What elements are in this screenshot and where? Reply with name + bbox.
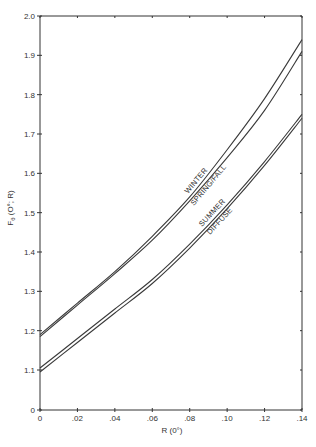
curve-spring-fall	[40, 51, 302, 336]
curve-diffuse	[40, 118, 302, 372]
curve-summer	[40, 114, 302, 368]
x-tick-label: .06	[147, 414, 159, 423]
x-tick-label: .10	[222, 414, 234, 423]
x-axis-title: R (0°)	[162, 426, 183, 435]
y-axis-title-rest: (O°; R)	[6, 190, 15, 218]
y-tick-label: 1.7	[24, 130, 36, 139]
y-tick-label: 2.0	[24, 12, 36, 21]
y-axis-title: Fθ (O°; R)	[6, 190, 16, 226]
x-tick-label: 0	[38, 414, 43, 423]
tick-labels: 2.01.91.81.71.61.51.41.31.21.100.02.04.0…	[24, 12, 308, 423]
chart: 2.01.91.81.71.61.51.41.31.21.100.02.04.0…	[0, 0, 316, 447]
x-tick-label: .14	[296, 414, 308, 423]
y-tick-label: 1.1	[24, 366, 36, 375]
curve-winter	[40, 40, 302, 335]
y-tick-label: 1.2	[24, 327, 36, 336]
x-tick-label: .08	[184, 414, 196, 423]
y-tick-label: 1.3	[24, 287, 36, 296]
y-tick-label: 0	[31, 406, 36, 415]
curves	[40, 40, 302, 372]
x-tick-label: .02	[72, 414, 84, 423]
y-tick-label: 1.8	[24, 91, 36, 100]
y-tick-label: 1.6	[24, 169, 36, 178]
y-tick-label: 1.4	[24, 248, 36, 257]
y-tick-label: 1.9	[24, 51, 36, 60]
x-tick-label: .12	[259, 414, 271, 423]
y-tick-label: 1.5	[24, 209, 36, 218]
x-tick-label: .04	[109, 414, 121, 423]
axes	[37, 16, 302, 412]
